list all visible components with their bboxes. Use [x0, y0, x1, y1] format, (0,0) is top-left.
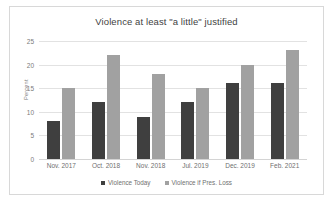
chart-title: Violence at least "a little" justified — [10, 16, 323, 27]
bar[interactable] — [107, 55, 120, 159]
legend-label: Violence if Pres. Loss — [172, 179, 232, 186]
bar[interactable] — [62, 88, 75, 159]
bar[interactable] — [271, 83, 284, 159]
bar[interactable] — [226, 83, 239, 159]
y-axis-tick-label: 15 — [27, 85, 34, 92]
x-axis-tick-label: Dec. 2019 — [218, 162, 263, 169]
bar[interactable] — [286, 50, 299, 159]
x-axis-tick-label: Jul. 2019 — [173, 162, 218, 169]
y-axis-tick-label: 5 — [30, 132, 34, 139]
legend-entry[interactable]: Violence if Pres. Loss — [165, 179, 232, 186]
x-axis-tick-label: Nov. 2018 — [128, 162, 173, 169]
bar[interactable] — [152, 74, 165, 159]
chart-legend: Violence TodayViolence if Pres. Loss — [10, 179, 323, 186]
bar-group — [84, 41, 129, 159]
bar-group — [218, 41, 263, 159]
y-axis-tick-label: 0 — [30, 156, 34, 163]
legend-entry[interactable]: Violence Today — [101, 179, 150, 186]
x-axis-tick-label: Nov. 2017 — [39, 162, 84, 169]
y-axis-tick-label: 10 — [27, 108, 34, 115]
bar-group — [128, 41, 173, 159]
bar-group — [262, 41, 307, 159]
legend-swatch-icon — [101, 181, 105, 185]
legend-swatch-icon — [165, 181, 169, 185]
legend-label: Violence Today — [108, 179, 150, 186]
bar[interactable] — [47, 121, 60, 159]
bar-group — [39, 41, 84, 159]
y-axis-tick-label: 20 — [27, 61, 34, 68]
gridline: 0 — [39, 159, 307, 160]
x-axis-tick-label: Feb. 2021 — [262, 162, 307, 169]
bar[interactable] — [92, 102, 105, 159]
x-axis-labels: Nov. 2017Oct. 2018Nov. 2018Jul. 2019Dec.… — [39, 162, 307, 169]
bar[interactable] — [196, 88, 209, 159]
x-axis-tick-label: Oct. 2018 — [84, 162, 129, 169]
y-axis-tick-label: 25 — [27, 38, 34, 45]
bar-group — [173, 41, 218, 159]
bar-groups — [39, 41, 307, 159]
bar[interactable] — [241, 65, 254, 159]
bar[interactable] — [137, 117, 150, 159]
plot-area: 0510152025 — [39, 41, 307, 159]
chart-container: Violence at least "a little" justified P… — [9, 6, 324, 195]
bar[interactable] — [181, 102, 194, 159]
